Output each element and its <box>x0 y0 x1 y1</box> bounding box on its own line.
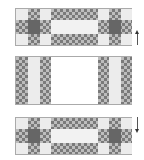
cell <box>109 118 121 129</box>
cell <box>51 118 98 129</box>
cell <box>121 34 132 45</box>
cell <box>40 9 51 20</box>
cell <box>16 57 28 104</box>
cell <box>109 57 121 104</box>
cell <box>51 9 98 20</box>
cell <box>121 143 132 154</box>
cell <box>28 129 40 143</box>
cell <box>40 57 51 104</box>
cell <box>51 20 98 34</box>
cell <box>98 143 109 154</box>
bottom-tile-pattern <box>15 117 132 155</box>
cell <box>98 118 109 129</box>
cell <box>121 9 132 20</box>
cell <box>98 57 109 104</box>
cell <box>16 34 28 45</box>
cell <box>40 34 51 45</box>
cell <box>109 143 121 154</box>
cell <box>16 9 28 20</box>
middle-tile-pattern <box>15 56 132 105</box>
cell <box>40 143 51 154</box>
cell <box>51 34 98 45</box>
cell <box>98 9 109 20</box>
cell <box>28 9 40 20</box>
cell <box>98 34 109 45</box>
cell <box>28 34 40 45</box>
cell <box>51 129 98 143</box>
cell <box>28 57 40 104</box>
cell <box>16 143 28 154</box>
cell <box>109 34 121 45</box>
cell <box>121 57 132 104</box>
cell <box>28 20 40 34</box>
cell <box>121 118 132 129</box>
cell <box>28 118 40 129</box>
cell <box>109 20 121 34</box>
cell <box>28 143 40 154</box>
cell <box>109 9 121 20</box>
cell <box>16 118 28 129</box>
cell <box>51 143 98 154</box>
top-tile-pattern <box>15 8 132 46</box>
cell <box>40 118 51 129</box>
cell <box>109 129 121 143</box>
